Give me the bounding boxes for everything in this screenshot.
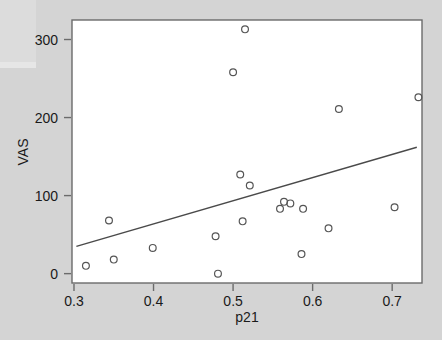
x-axis: 0.30.40.50.60.7 [64,284,402,309]
y-tick-label: 100 [35,188,59,204]
x-tick-label: 0.5 [223,293,243,309]
y-tick-label: 0 [50,266,58,282]
figure-container: 0100200300 0.30.40.50.60.7 p21 VAS [0,0,442,340]
x-tick-label: 0.3 [64,293,84,309]
scatter-plot: 0100200300 0.30.40.50.60.7 p21 VAS [0,0,442,340]
y-axis: 0100200300 [35,32,71,282]
plot-panel [72,20,422,283]
x-tick-label: 0.7 [382,293,402,309]
y-tick-label: 300 [35,32,59,48]
x-axis-title: p21 [235,309,259,325]
y-axis-title: VAS [15,139,31,166]
x-tick-label: 0.4 [144,293,164,309]
x-tick-label: 0.6 [303,293,323,309]
y-tick-label: 200 [35,110,59,126]
